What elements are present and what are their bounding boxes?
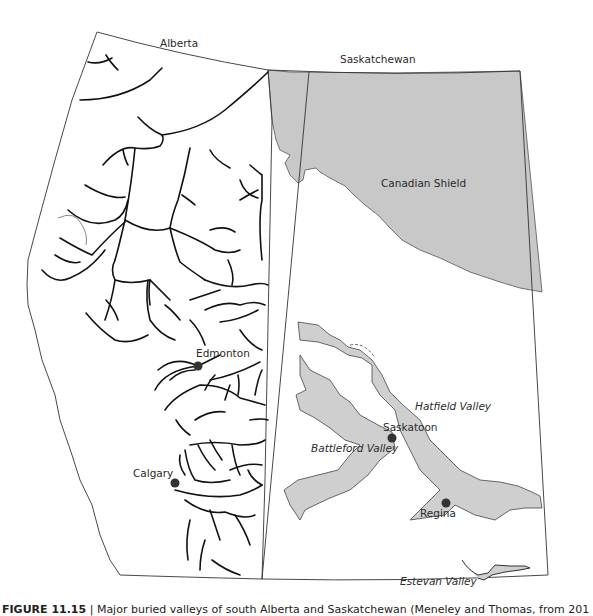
label-canadian-shield: Canadian Shield [381,177,466,189]
edmonton-dot [194,362,203,371]
label-calgary: Calgary [133,467,173,479]
rivers [42,55,268,575]
label-estevan-valley: Estevan Valley [400,575,478,587]
label-battleford-valley: Battleford Valley [311,442,399,454]
caption-text: | Major buried valleys of south Alberta … [86,603,589,616]
label-regina: Regina [420,507,456,519]
figure-caption: FIGURE 11.15 | Major buried valleys of s… [2,603,593,616]
figure-number: FIGURE 11.15 [2,603,86,616]
label-saskatoon: Saskatoon [383,421,438,433]
label-alberta: Alberta [160,37,198,49]
label-edmonton: Edmonton [196,347,250,359]
label-hatfield-valley: Hatfield Valley [415,400,492,412]
label-saskatchewan: Saskatchewan [340,53,416,65]
calgary-dot [171,479,180,488]
